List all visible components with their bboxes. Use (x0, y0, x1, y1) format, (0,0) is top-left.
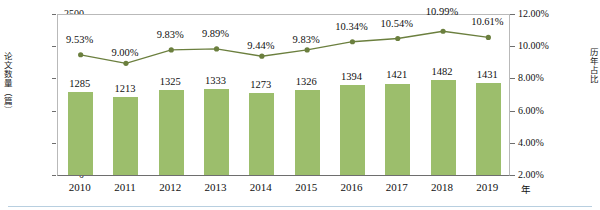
chart-figure: 论文数量（篇） 历年占比 05001000150020002500 2.00%4… (0, 0, 600, 210)
right-axis-title: 历年占比 (587, 48, 599, 84)
left-tick-mark (52, 111, 56, 112)
line-value-label: 9.00% (95, 47, 155, 58)
left-tick-mark (52, 14, 56, 15)
bar-value-label: 1431 (460, 69, 514, 80)
line-value-label: 9.83% (276, 34, 336, 45)
line-marker (123, 61, 128, 66)
right-tick-label: 6.00% (518, 106, 580, 116)
line-marker (214, 46, 219, 51)
x-axis-unit-label: 年 (521, 182, 531, 196)
right-tick-label: 8.00% (518, 73, 580, 83)
line-marker (395, 36, 400, 41)
line-marker (78, 52, 83, 57)
x-tick-label: 2019 (457, 181, 517, 193)
line-marker (169, 47, 174, 52)
line-marker (486, 35, 491, 40)
left-tick-mark (52, 143, 56, 144)
right-tick-label: 2.00% (518, 170, 580, 180)
line-marker (305, 47, 310, 52)
line-value-label: 10.54% (367, 18, 427, 29)
right-tick-label: 12.00% (518, 9, 580, 19)
left-axis-title: 论文数量（篇） (1, 52, 13, 115)
line-value-label: 9.89% (186, 28, 246, 39)
right-tick-label: 10.00% (518, 41, 580, 51)
line-value-label: 9.53% (50, 34, 110, 45)
line-marker (440, 29, 445, 34)
line-marker (350, 39, 355, 44)
right-tick-label: 4.00% (518, 138, 580, 148)
left-tick-mark (52, 46, 56, 47)
line-marker (259, 54, 264, 59)
line-value-label: 10.61% (457, 16, 517, 27)
left-tick-mark (52, 175, 56, 176)
bottom-divider (8, 206, 592, 207)
